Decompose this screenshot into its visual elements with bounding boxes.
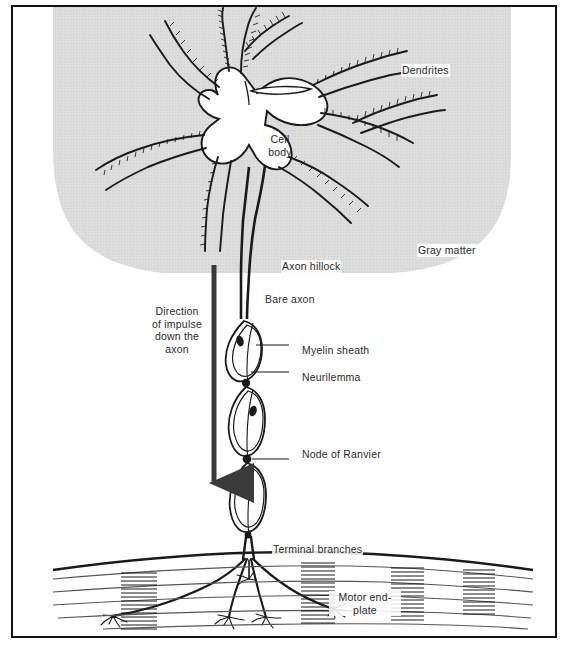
striation-band-4 <box>463 570 495 614</box>
label-direction-of-impulse: Direction of impulse down the axon <box>145 305 209 355</box>
label-bare-axon: Bare axon <box>264 293 316 306</box>
node-of-ranvier-1 <box>242 379 250 387</box>
label-dendrites: Dendrites <box>401 64 450 77</box>
label-terminal-branches: Terminal branches <box>272 543 363 556</box>
label-motor-end-plate: Motor end- plate <box>329 591 401 616</box>
figure-border-frame: Dendrites Cell body Gray matter Axon hil… <box>11 5 557 638</box>
neuron-diagram-canvas <box>13 7 555 636</box>
label-cell-body: Cell body <box>256 133 304 158</box>
label-axon-hillock: Axon hillock <box>281 260 341 273</box>
label-gray-matter: Gray matter <box>417 244 477 257</box>
figure-root: Dendrites Cell body Gray matter Axon hil… <box>0 0 571 651</box>
myelin-internode-1 <box>226 321 262 382</box>
myelin-internode-2 <box>229 387 265 457</box>
label-node-of-ranvier: Node of Ranvier <box>301 448 382 461</box>
end-plate-tuft-2 <box>215 615 244 629</box>
myelinated-axon-region <box>226 321 266 538</box>
label-neurilemma: Neurilemma <box>301 371 362 384</box>
striation-band-1 <box>121 573 157 629</box>
myelin-internode-3 <box>230 463 266 533</box>
label-myelin-sheath: Myelin sheath <box>301 344 370 357</box>
